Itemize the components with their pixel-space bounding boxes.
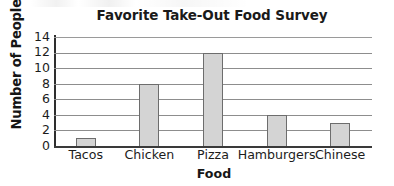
y-tick-label-6: 6 xyxy=(26,93,50,106)
y-tick-label-14: 14 xyxy=(26,31,50,44)
y-tick-label-2: 2 xyxy=(26,124,50,137)
y-tick-label-8: 8 xyxy=(26,78,50,91)
scan-artifact xyxy=(30,0,250,7)
x-axis-title: Food xyxy=(0,166,394,181)
y-axis-title: Number of People xyxy=(9,10,24,130)
gridline-14 xyxy=(54,37,372,38)
bar-chinese xyxy=(330,123,350,146)
y-tick-label-12: 12 xyxy=(26,46,50,59)
bar-chart-figure: Favorite Take-Out Food Survey Number of … xyxy=(0,0,394,186)
y-axis-tick-labels: 02468101214 xyxy=(24,37,50,146)
plot-area xyxy=(54,37,372,146)
bar-chicken xyxy=(139,84,159,146)
bar-hamburgers xyxy=(267,115,287,146)
bar-tacos xyxy=(76,138,96,146)
bar-pizza xyxy=(203,53,223,146)
x-tick-label-chinese: Chinese xyxy=(290,148,390,162)
chart-title: Favorite Take-Out Food Survey xyxy=(78,7,346,23)
y-tick-label-4: 4 xyxy=(26,109,50,122)
x-axis-tick-labels: TacosChickenPizzaHamburgersChinese xyxy=(54,148,384,166)
y-tick-label-10: 10 xyxy=(26,62,50,75)
